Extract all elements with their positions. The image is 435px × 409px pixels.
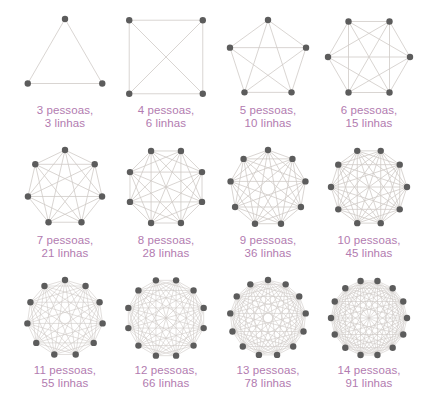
person-node xyxy=(96,299,102,305)
person-node xyxy=(303,310,309,316)
caption-lines: 21 linhas xyxy=(10,247,120,260)
complete-graph-7 xyxy=(25,147,106,226)
edge-line xyxy=(235,207,255,224)
person-node xyxy=(357,278,363,284)
person-node xyxy=(25,193,31,199)
caption-people: 7 pessoas, xyxy=(10,234,120,247)
person-node xyxy=(27,299,33,305)
person-node xyxy=(232,204,238,210)
edge-line xyxy=(130,151,151,172)
complete-graph-13 xyxy=(227,277,309,358)
person-node xyxy=(148,220,154,226)
person-node xyxy=(378,148,384,154)
person-node xyxy=(99,80,105,86)
edges xyxy=(129,20,203,94)
edge-line xyxy=(381,151,400,165)
complete-graph-14 xyxy=(328,278,410,358)
person-node xyxy=(296,293,302,299)
edge-line xyxy=(381,209,400,223)
person-node xyxy=(345,18,351,24)
edge-line xyxy=(35,164,102,196)
person-node xyxy=(397,161,403,167)
edge-line xyxy=(130,172,181,223)
edges xyxy=(230,20,306,92)
edge-line xyxy=(338,151,357,165)
person-node xyxy=(256,352,262,358)
edge-line xyxy=(338,209,357,223)
person-node xyxy=(126,91,132,97)
person-node xyxy=(247,281,253,287)
person-node xyxy=(404,315,410,321)
person-node xyxy=(190,287,196,293)
edge-line xyxy=(28,196,82,222)
edges xyxy=(28,19,102,84)
edge-line xyxy=(35,150,65,164)
edge-line xyxy=(400,187,407,209)
caption-people: 4 pessoas, xyxy=(111,104,221,117)
edge-line xyxy=(181,202,202,223)
person-node xyxy=(400,298,406,304)
person-node xyxy=(200,91,206,97)
caption-10-pessoas: 10 pessoas,45 linhas xyxy=(314,234,424,260)
person-node xyxy=(127,169,133,175)
person-node xyxy=(290,343,296,349)
edge-line xyxy=(65,19,102,84)
caption-lines: 45 linhas xyxy=(314,247,424,260)
person-node xyxy=(51,351,57,357)
person-node xyxy=(135,287,141,293)
person-node xyxy=(227,310,233,316)
person-node xyxy=(199,169,205,175)
caption-lines: 55 linhas xyxy=(10,377,120,390)
person-node xyxy=(190,342,196,348)
person-node xyxy=(335,161,341,167)
edge-line xyxy=(281,207,301,224)
complete-graph-9 xyxy=(227,147,308,227)
person-node xyxy=(404,184,410,190)
person-node xyxy=(227,44,233,50)
caption-8-pessoas: 8 pessoas,28 linhas xyxy=(111,234,221,260)
person-node xyxy=(173,277,179,283)
person-node xyxy=(82,283,88,289)
person-node xyxy=(199,199,205,205)
person-node xyxy=(332,298,338,304)
edge-line xyxy=(28,164,95,196)
caption-lines: 66 linhas xyxy=(111,377,221,390)
edge-line xyxy=(268,20,306,48)
person-node xyxy=(241,89,247,95)
edge-line xyxy=(230,20,268,48)
caption-lines: 36 linhas xyxy=(213,247,323,260)
caption-12-pessoas: 12 pessoas,66 linhas xyxy=(111,364,221,390)
caption-6-pessoas: 6 pessoas,15 linhas xyxy=(314,104,424,130)
caption-7-pessoas: 7 pessoas,21 linhas xyxy=(10,234,120,260)
complete-graphs-figure xyxy=(0,0,435,409)
caption-lines: 78 linhas xyxy=(213,377,323,390)
person-node xyxy=(92,161,98,167)
caption-11-pessoas: 11 pessoas,55 linhas xyxy=(10,364,120,390)
person-node xyxy=(62,147,68,153)
person-node xyxy=(62,16,68,22)
edges xyxy=(331,151,407,223)
edge-line xyxy=(30,302,102,323)
edge-line xyxy=(331,187,338,209)
caption-5-pessoas: 5 pessoas,10 linhas xyxy=(213,104,323,130)
person-node xyxy=(173,352,179,358)
edge-line xyxy=(244,150,268,159)
person-node xyxy=(325,54,331,60)
edge-line xyxy=(328,57,349,93)
caption-people: 12 pessoas, xyxy=(111,364,221,377)
person-node xyxy=(229,328,235,334)
person-node xyxy=(73,351,79,357)
person-node xyxy=(400,331,406,337)
edges xyxy=(331,281,407,355)
edge-line xyxy=(244,20,268,92)
complete-graph-6 xyxy=(325,18,413,95)
person-node xyxy=(335,206,341,212)
person-node xyxy=(265,17,271,23)
complete-graph-8 xyxy=(127,148,205,226)
person-node xyxy=(200,305,206,311)
edge-line xyxy=(390,21,411,57)
person-node xyxy=(62,277,68,283)
edge-line xyxy=(44,280,65,286)
complete-graph-4 xyxy=(126,17,206,97)
edge-line xyxy=(345,288,377,355)
